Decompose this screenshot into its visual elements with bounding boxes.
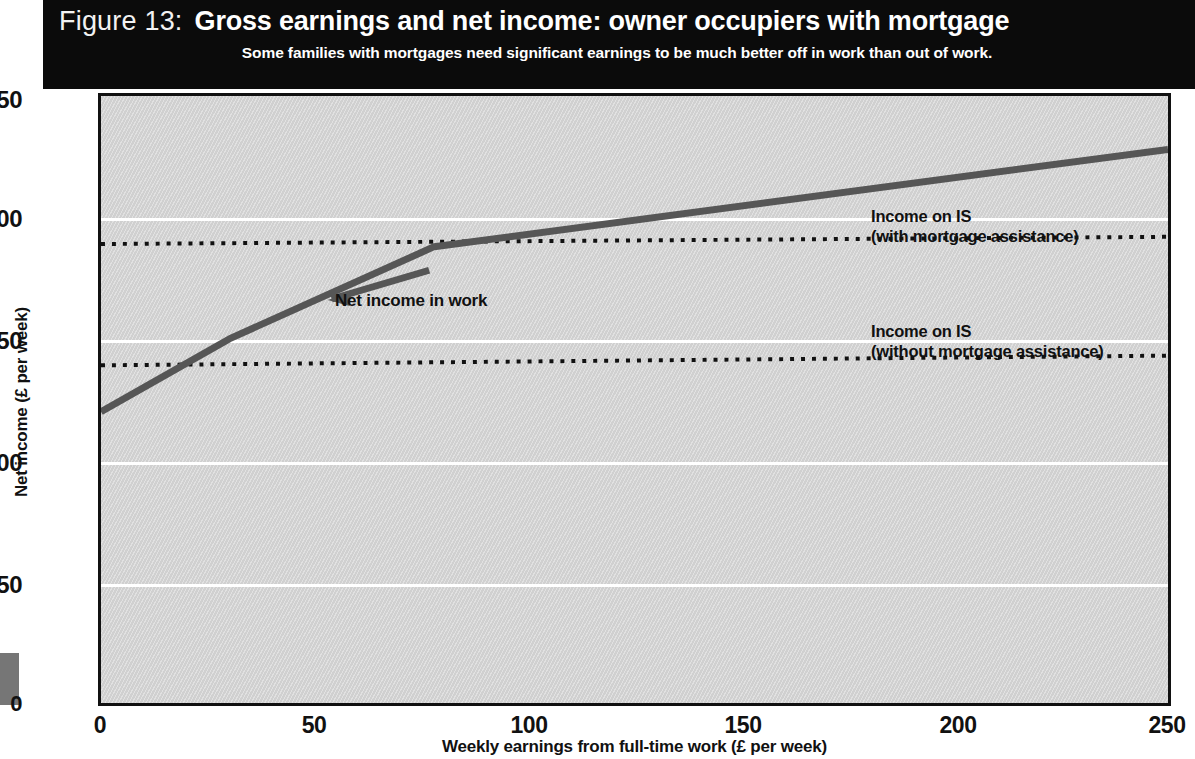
y-tick-200: 200 <box>0 205 22 233</box>
y-tick-50: 50 <box>0 571 22 599</box>
figure-title: Gross earnings and net income: owner occ… <box>195 6 1010 37</box>
title-line: Figure 13: Gross earnings and net income… <box>59 6 1181 37</box>
x-tick-50: 50 <box>269 712 359 739</box>
plot-svg <box>101 96 1168 703</box>
figure-title-banner: Figure 13: Gross earnings and net income… <box>43 0 1195 89</box>
x-tick-150: 150 <box>698 712 788 739</box>
figure-number: Figure 13: <box>59 6 183 37</box>
x-tick-250: 250 <box>1122 712 1195 739</box>
y-tick-250: 250 <box>0 86 22 114</box>
y-axis-title: Net income (£ per week) <box>12 237 32 567</box>
x-tick-100: 100 <box>484 712 574 739</box>
annotation-income-on-is-without-mortgage-assistance: Income on IS (without mortgage assistanc… <box>871 321 1104 361</box>
figure-subtitle: Some families with mortgages need signif… <box>59 44 1181 62</box>
series-net-income-in-work <box>101 149 1168 411</box>
plot-area: Income on IS (with mortgage assistance) … <box>98 93 1171 706</box>
x-tick-0: 0 <box>55 712 145 739</box>
x-tick-200: 200 <box>913 712 1003 739</box>
x-axis-title: Weekly earnings from full-time work (£ p… <box>98 737 1171 757</box>
y-tick-0: 0 <box>0 691 22 717</box>
annotation-net-income-in-work: Net income in work <box>335 291 487 312</box>
annotation-income-on-is-with-mortgage-assistance: Income on IS (with mortgage assistance) <box>871 206 1079 246</box>
figure-container: Figure 13: Gross earnings and net income… <box>0 0 1195 759</box>
